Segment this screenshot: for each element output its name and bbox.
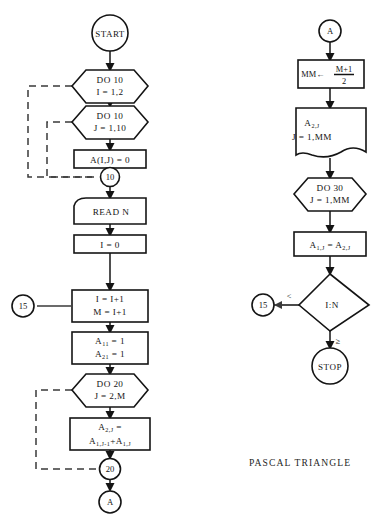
node-midpoint-lhs-text: MM bbox=[301, 70, 316, 79]
node-start[interactable]: START bbox=[92, 15, 128, 51]
node-seed-line1-sub: 11 bbox=[102, 340, 109, 347]
node-decision-label: I:N bbox=[325, 300, 338, 310]
node-midpoint[interactable]: MM← M+1 2 bbox=[298, 60, 364, 88]
node-output-line1-base: A bbox=[304, 118, 311, 128]
node-do30-line2: J = 1,MM bbox=[310, 195, 350, 205]
node-midpoint-lhs: MM← bbox=[301, 70, 324, 79]
node-increment[interactable]: I = I+1 M = I+1 bbox=[72, 290, 148, 322]
node-do10-inner-line1: DO 10 bbox=[97, 111, 124, 121]
node-copy-eq: = bbox=[325, 240, 335, 250]
branch-label-greater-equal: ≥ bbox=[336, 337, 341, 346]
node-do10-inner[interactable]: DO 10 J = 1,10 bbox=[72, 106, 148, 139]
node-sum-line2-sub2: 1,J bbox=[123, 440, 131, 447]
node-do20[interactable]: DO 20 J = 2,M bbox=[72, 374, 148, 407]
diagram-caption: PASCAL TRIANGLE bbox=[249, 457, 351, 468]
node-do10-outer-line2: I = 1,2 bbox=[96, 87, 123, 97]
node-read[interactable]: READ N bbox=[74, 198, 146, 224]
node-sum-line2-base1: A bbox=[89, 436, 96, 446]
node-do30[interactable]: DO 30 J = 1,MM bbox=[294, 178, 366, 211]
node-seed-line1: A11 = 1 bbox=[95, 336, 125, 347]
node-sum-line1-rest: = bbox=[114, 422, 122, 432]
node-increment-line2: M = I+1 bbox=[93, 307, 127, 317]
connector-20-label: 20 bbox=[106, 464, 115, 474]
flowchart-svg: START DO 10 I = 1,2 DO 10 J = 1,10 A(I,J… bbox=[0, 0, 380, 529]
node-copy-rhs-base: A bbox=[335, 240, 342, 250]
flowchart-canvas: START DO 10 I = 1,2 DO 10 J = 1,10 A(I,J… bbox=[0, 0, 380, 529]
node-seed-line2-rest: = 1 bbox=[109, 349, 125, 359]
connector-10-label: 10 bbox=[106, 172, 115, 182]
node-seed[interactable]: A11 = 1 A21 = 1 bbox=[72, 332, 148, 364]
node-zero-fill[interactable]: A(I,J) = 0 bbox=[74, 150, 146, 168]
node-midpoint-denominator: 2 bbox=[342, 77, 346, 86]
connector-a-out-label: A bbox=[107, 497, 114, 507]
node-do20-line2: J = 2,M bbox=[94, 391, 125, 401]
connector-a-in-label: A bbox=[327, 26, 334, 36]
node-seed-line1-rest: = 1 bbox=[109, 336, 125, 346]
node-copy-lhs-sub: 1,J bbox=[317, 244, 325, 251]
node-copy-rhs-sub: 2,J bbox=[342, 244, 350, 251]
node-output[interactable]: A2,J J = 1,MM bbox=[292, 108, 366, 157]
node-copy-lhs-base: A bbox=[309, 240, 316, 250]
node-init-i[interactable]: I = 0 bbox=[74, 235, 146, 253]
node-start-label: START bbox=[95, 29, 125, 39]
node-seed-line2-base: A bbox=[95, 349, 102, 359]
node-midpoint-arrow: ← bbox=[316, 70, 324, 79]
node-seed-line2: A21 = 1 bbox=[95, 349, 125, 360]
node-increment-line1: I = I+1 bbox=[96, 294, 124, 304]
node-do10-outer[interactable]: DO 10 I = 1,2 bbox=[72, 70, 148, 103]
node-seed-line2-sub: 21 bbox=[102, 353, 109, 360]
branch-label-less: < bbox=[287, 292, 292, 301]
connector-15-source-label: 15 bbox=[19, 301, 28, 311]
node-stop[interactable]: STOP bbox=[312, 348, 348, 384]
connector-a-in[interactable]: A bbox=[319, 20, 341, 42]
node-sum[interactable]: A2,J = A1,J-1+A1,J bbox=[70, 418, 150, 450]
connector-10[interactable]: 10 bbox=[101, 168, 120, 187]
node-do20-line1: DO 20 bbox=[97, 379, 124, 389]
node-do10-inner-line2: J = 1,10 bbox=[94, 123, 127, 133]
node-sum-line2-base2: A bbox=[116, 436, 123, 446]
node-read-label: READ N bbox=[93, 207, 129, 217]
node-output-line2: J = 1,MM bbox=[292, 132, 332, 142]
connector-15-source[interactable]: 15 bbox=[12, 295, 34, 317]
node-output-line1-sub: 2,J bbox=[311, 122, 319, 129]
node-copy[interactable]: A1,J = A2,J bbox=[294, 232, 366, 256]
node-zero-fill-label: A(I,J) = 0 bbox=[90, 155, 130, 165]
node-midpoint-numerator: M+1 bbox=[336, 65, 352, 74]
connector-15-target-label: 15 bbox=[259, 300, 268, 310]
node-init-i-label: I = 0 bbox=[100, 240, 119, 250]
node-seed-line1-base: A bbox=[95, 336, 102, 346]
node-do10-outer-line1: DO 10 bbox=[97, 75, 124, 85]
connector-15-target[interactable]: 15 bbox=[252, 294, 274, 316]
connector-20[interactable]: 20 bbox=[100, 459, 121, 480]
connector-a-out[interactable]: A bbox=[99, 491, 121, 513]
node-stop-label: STOP bbox=[318, 362, 342, 372]
node-sum-line1-base: A bbox=[98, 422, 105, 432]
node-do30-line1: DO 30 bbox=[317, 183, 344, 193]
node-decision[interactable]: I:N bbox=[299, 274, 369, 331]
node-sum-line1-sub: 2,J bbox=[105, 426, 113, 433]
node-sum-line2-sub1: 1,J-1 bbox=[96, 440, 110, 447]
